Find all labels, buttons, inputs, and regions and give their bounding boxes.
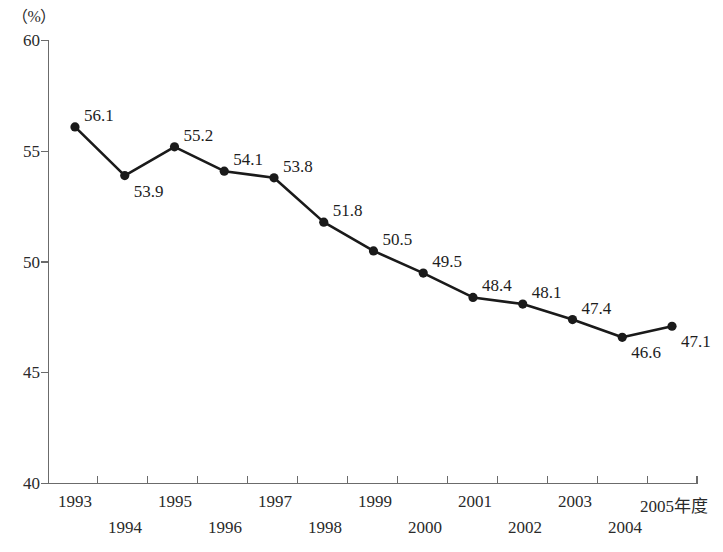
data-point-marker (518, 299, 527, 308)
x-axis-ticks (49, 476, 698, 484)
x-tick-label: 1993 (40, 492, 110, 512)
data-point-marker (319, 218, 328, 227)
chart-plot-area (0, 0, 723, 552)
data-point-marker (70, 122, 79, 131)
x-tick-label: 2003 (540, 492, 610, 512)
data-point-label: 55.2 (184, 126, 214, 146)
data-point-label: 48.1 (532, 283, 562, 303)
x-tick-label: 2005年度 (640, 492, 723, 517)
data-point-label: 51.8 (333, 201, 363, 221)
x-tick-label: 1997 (240, 492, 310, 512)
data-point-marker (667, 322, 676, 331)
data-point-marker (220, 167, 229, 176)
x-tick-label: 2001 (440, 492, 510, 512)
axis-lines (48, 40, 697, 484)
data-point-label: 53.9 (134, 182, 164, 202)
data-point-marker (369, 246, 378, 255)
y-tick-label: 40 (0, 474, 40, 494)
x-tick-label: 1999 (340, 492, 410, 512)
x-tick-label: 2000 (390, 518, 460, 538)
data-point-marker (618, 333, 627, 342)
data-point-marker (468, 293, 477, 302)
data-point-label: 56.1 (84, 106, 114, 126)
data-point-label: 47.1 (681, 332, 711, 352)
data-point-label: 46.6 (631, 343, 661, 363)
x-tick-label: 1998 (290, 518, 360, 538)
data-point-marker (419, 268, 428, 277)
data-point-marker (170, 142, 179, 151)
data-point-label: 54.1 (233, 150, 263, 170)
x-tick-label: 2004 (590, 518, 660, 538)
x-tick-label: 1994 (90, 518, 160, 538)
y-tick-label: 55 (0, 142, 40, 162)
data-point-marker (120, 171, 129, 180)
line-chart: （%） (0, 0, 723, 552)
data-point-label: 53.8 (283, 157, 313, 177)
data-point-label: 50.5 (383, 230, 413, 250)
y-tick-label: 50 (0, 253, 40, 273)
data-point-marker (269, 173, 278, 182)
data-point-label: 47.4 (582, 299, 612, 319)
y-tick-label: 60 (0, 31, 40, 51)
x-tick-label: 1995 (140, 492, 210, 512)
x-tick-label: 1996 (190, 518, 260, 538)
y-axis-ticks (41, 41, 48, 484)
data-point-label: 49.5 (432, 252, 462, 272)
data-point-marker (568, 315, 577, 324)
x-tick-label: 2002 (490, 518, 560, 538)
data-point-label: 48.4 (482, 276, 512, 296)
y-tick-label: 45 (0, 363, 40, 383)
